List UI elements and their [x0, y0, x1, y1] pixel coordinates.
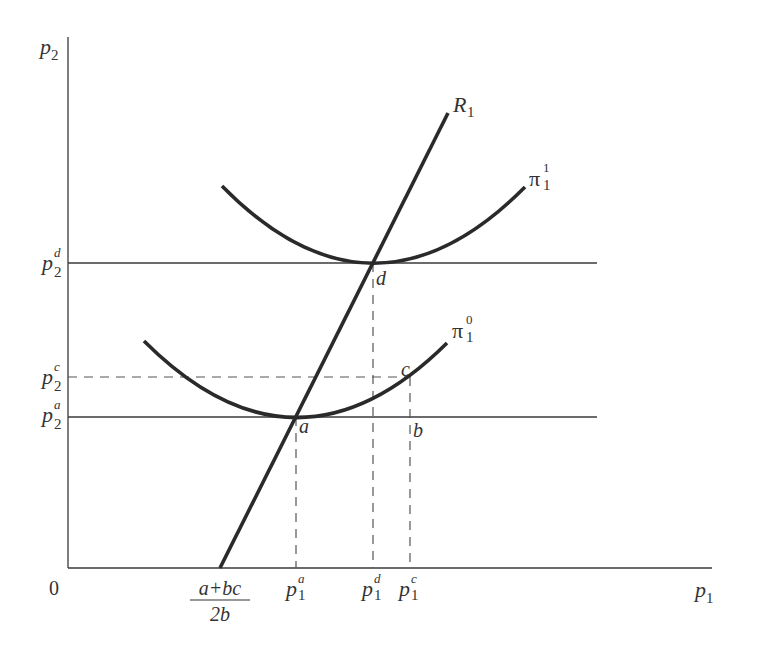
svg-text:c: c	[411, 571, 417, 586]
svg-text:p: p	[40, 250, 53, 275]
svg-text:2b: 2b	[210, 603, 230, 625]
svg-text:p: p	[284, 576, 297, 601]
svg-text:2: 2	[54, 416, 62, 432]
origin-label: 0	[49, 577, 59, 599]
x-tick-intercept: a+bc 2b	[190, 577, 250, 625]
svg-text:p: p	[360, 576, 373, 601]
diagram-canvas: p2 p1 0 p d 2 p c 2 p a 2 a+bc 2b p a 1 …	[0, 0, 759, 652]
y-axis-label: p2	[38, 34, 59, 63]
svg-text:a: a	[54, 397, 61, 412]
point-b-label: b	[413, 419, 423, 441]
svg-text:1: 1	[543, 160, 550, 175]
svg-text:a+bc: a+bc	[199, 577, 241, 599]
x-tick-p1c: p c 1	[397, 571, 419, 603]
reaction-function-line	[220, 113, 448, 568]
isoprofit-low-label: π 0 1	[452, 312, 474, 345]
point-c-label: c	[401, 358, 410, 380]
svg-text:1: 1	[467, 104, 475, 120]
svg-text:0: 0	[466, 312, 473, 327]
svg-text:c: c	[54, 359, 60, 374]
svg-text:d: d	[374, 571, 381, 586]
svg-text:1: 1	[411, 587, 419, 603]
svg-text:a: a	[298, 571, 305, 586]
svg-text:2: 2	[54, 264, 62, 280]
svg-text:1: 1	[466, 329, 474, 345]
isoprofit-high-label: π 1 1	[529, 160, 551, 193]
isoprofit-curve-high	[222, 186, 525, 263]
svg-text:p: p	[397, 576, 410, 601]
svg-text:p: p	[40, 402, 53, 427]
svg-text:p: p	[40, 364, 53, 389]
point-a-label: a	[299, 415, 309, 437]
svg-text:π: π	[529, 166, 540, 191]
reaction-function-label: R 1	[452, 92, 475, 120]
y-tick-p2c: p c 2	[40, 359, 62, 394]
svg-text:1: 1	[298, 587, 306, 603]
x-axis-label: p1	[693, 577, 714, 606]
svg-text:d: d	[54, 245, 61, 260]
svg-text:2: 2	[54, 378, 62, 394]
x-tick-p1d: p d 1	[360, 571, 382, 603]
point-d-label: d	[376, 267, 387, 289]
y-tick-p2d: p d 2	[40, 245, 62, 280]
y-tick-p2a: p a 2	[40, 397, 62, 432]
svg-text:π: π	[452, 318, 463, 343]
svg-text:R: R	[452, 92, 467, 117]
svg-text:1: 1	[543, 177, 551, 193]
x-tick-p1a: p a 1	[284, 571, 306, 603]
svg-text:1: 1	[374, 587, 382, 603]
